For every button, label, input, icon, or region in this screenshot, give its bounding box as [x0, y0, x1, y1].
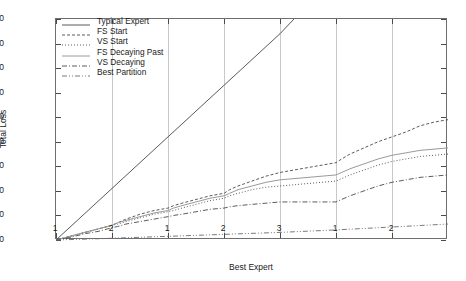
legend-line-swatch — [61, 36, 91, 46]
legend-item: VS Start — [61, 36, 183, 46]
legend-item: FS Decaying Past — [61, 47, 183, 57]
legend-item: Typical Expert — [61, 16, 183, 26]
y-tick-label: 80 — [0, 136, 4, 146]
x-tick-label: 1 — [165, 223, 170, 233]
legend-label: FS Start — [97, 26, 127, 36]
x-tick-label: 2 — [109, 223, 114, 233]
y-tick-label: 40 — [0, 185, 4, 195]
legend-line-swatch — [61, 16, 91, 26]
x-tick-label: 3 — [277, 223, 282, 233]
legend-item: VS Decaying — [61, 57, 183, 67]
legend-label: VS Start — [97, 36, 128, 46]
legend-line-swatch — [61, 26, 91, 36]
y-tick-label: 20 — [0, 209, 4, 219]
legend-label: Best Partition — [97, 67, 146, 77]
x-tick-label: 2 — [221, 223, 226, 233]
y-tick-label: 120 — [0, 87, 4, 97]
y-tick-mark — [441, 240, 446, 241]
y-tick-label: 60 — [0, 160, 4, 170]
y-tick-label: 160 — [0, 38, 4, 48]
chart-legend: Typical ExpertFS StartVS StartFS Decayin… — [61, 16, 183, 78]
y-tick-label: 100 — [0, 111, 4, 121]
series-line — [56, 120, 448, 240]
y-tick-label: 180 — [0, 13, 4, 23]
x-tick-label: 1 — [333, 223, 338, 233]
legend-label: FS Decaying Past — [97, 47, 163, 57]
legend-label: VS Decaying — [97, 57, 145, 67]
y-tick-label: 140 — [0, 62, 4, 72]
legend-item: FS Start — [61, 26, 183, 36]
legend-line-swatch — [61, 57, 91, 67]
x-tick-label: 2 — [389, 223, 394, 233]
legend-item: Best Partition — [61, 67, 183, 77]
chart-figure: Total Loss Best Expert 02040608010012014… — [0, 0, 466, 281]
legend-line-swatch — [61, 67, 91, 77]
legend-line-swatch — [61, 47, 91, 57]
x-axis-title: Best Expert — [229, 262, 273, 272]
x-tick-label: 1 — [53, 223, 58, 233]
y-tick-label: 0 — [0, 234, 4, 244]
legend-label: Typical Expert — [97, 16, 149, 26]
